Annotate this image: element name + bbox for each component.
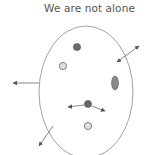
light-particle-left: [59, 62, 66, 69]
cell-diagram: [0, 0, 149, 155]
dark-particle-middle: [84, 100, 91, 107]
exchange-arrow-top-right: [117, 46, 139, 62]
cell-membrane: [39, 26, 133, 155]
movement-arrow-left: [68, 105, 84, 107]
dark-particle-top: [73, 43, 80, 50]
light-particle-bottom: [84, 122, 91, 129]
movement-arrow-right: [92, 106, 105, 111]
oval-particle: [112, 76, 119, 90]
